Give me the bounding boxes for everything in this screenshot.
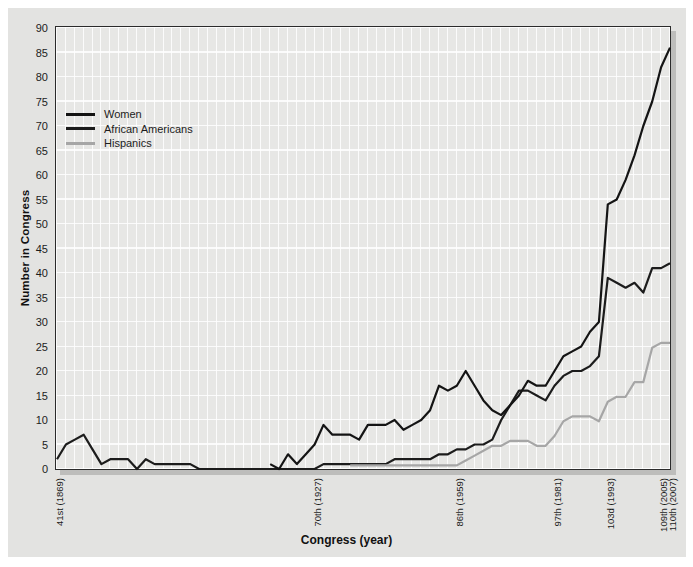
x-tick-label: 103d (1993) bbox=[605, 478, 617, 536]
y-axis-title: Number in Congress bbox=[19, 180, 31, 316]
legend-label: Hispanics bbox=[104, 137, 152, 149]
legend-swatch-african-americans bbox=[66, 127, 95, 130]
x-tick-label: 41st (1869) bbox=[54, 478, 66, 536]
y-tick-label: 70 bbox=[14, 120, 48, 132]
y-tick-label: 15 bbox=[14, 390, 48, 402]
legend-item-hispanics: Hispanics bbox=[66, 136, 193, 151]
legend-item-african-americans: African Americans bbox=[66, 122, 193, 137]
y-tick-label: 10 bbox=[14, 414, 48, 426]
y-tick-label: 80 bbox=[14, 71, 48, 83]
y-tick-label: 75 bbox=[14, 96, 48, 108]
y-tick-label: 5 bbox=[14, 439, 48, 451]
plot-area bbox=[55, 26, 671, 470]
y-tick-label: 85 bbox=[14, 47, 48, 59]
legend-swatch-women bbox=[66, 113, 95, 116]
x-tick-label: 86th (1959) bbox=[454, 478, 466, 536]
legend-label: Women bbox=[104, 108, 142, 120]
x-tick-label: 97th (1981) bbox=[552, 478, 564, 536]
x-tick-label: 110th (2007) bbox=[667, 478, 679, 536]
y-tick-label: 20 bbox=[14, 365, 48, 377]
y-tick-label: 65 bbox=[14, 145, 48, 157]
legend: WomenAfrican AmericansHispanics bbox=[66, 107, 193, 151]
legend-swatch-hispanics bbox=[66, 142, 95, 145]
legend-item-women: Women bbox=[66, 107, 193, 122]
y-tick-label: 30 bbox=[14, 316, 48, 328]
y-tick-label: 25 bbox=[14, 341, 48, 353]
y-tick-label: 0 bbox=[14, 463, 48, 475]
x-tick-label: 70th (1927) bbox=[312, 478, 324, 536]
x-axis-title: Congress (year) bbox=[0, 533, 693, 547]
figure: 051015202530354045505560657075808590 41s… bbox=[0, 0, 693, 567]
legend-label: African Americans bbox=[104, 123, 193, 135]
y-tick-label: 90 bbox=[14, 22, 48, 34]
